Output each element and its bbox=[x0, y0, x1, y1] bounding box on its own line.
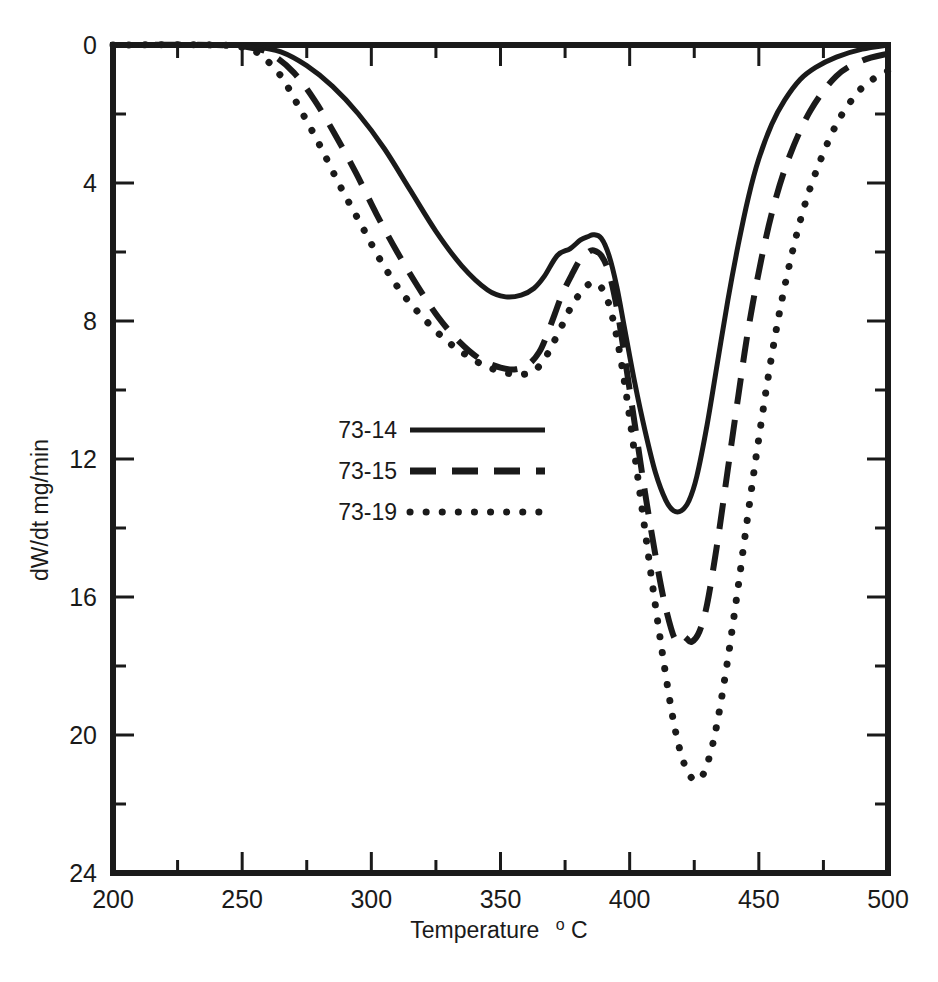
x-tick-labels: 200250300350400450500 bbox=[92, 885, 909, 913]
chart-legend: 73-1473-1573-19 bbox=[338, 417, 545, 525]
legend-label-73-14: 73-14 bbox=[338, 417, 397, 443]
x-tick-label: 500 bbox=[867, 885, 909, 913]
y-axis-title: dW/dt mg/min bbox=[27, 439, 53, 581]
y-tick-label: 0 bbox=[83, 31, 97, 59]
x-tick-label: 400 bbox=[609, 885, 651, 913]
data-series-group bbox=[113, 45, 888, 781]
legend-label-73-19: 73-19 bbox=[338, 499, 397, 525]
x-tick-label: 450 bbox=[738, 885, 780, 913]
y-tick-label: 20 bbox=[69, 721, 97, 749]
y-tick-label: 24 bbox=[69, 859, 97, 887]
x-tick-label: 300 bbox=[350, 885, 392, 913]
y-tick-label: 16 bbox=[69, 583, 97, 611]
y-tick-label: 8 bbox=[83, 307, 97, 335]
axis-ticks bbox=[116, 48, 885, 870]
dtg-chart: 200250300350400450500 04812162024 Temper… bbox=[0, 0, 938, 982]
series-line-73-14 bbox=[113, 45, 888, 512]
x-axis-title-degree: o bbox=[556, 916, 565, 933]
y-tick-label: 4 bbox=[83, 169, 97, 197]
x-tick-label: 350 bbox=[480, 885, 522, 913]
x-tick-label: 200 bbox=[92, 885, 134, 913]
x-axis-title: Temperature o C bbox=[410, 909, 587, 943]
series-line-73-19 bbox=[113, 45, 888, 781]
legend-label-73-15: 73-15 bbox=[338, 458, 397, 484]
x-axis-title-unit: C bbox=[571, 917, 588, 943]
x-tick-label: 250 bbox=[221, 885, 263, 913]
y-tick-labels: 04812162024 bbox=[69, 31, 97, 887]
x-axis-title-main: Temperature bbox=[410, 917, 539, 943]
y-tick-label: 12 bbox=[69, 445, 97, 473]
plot-frame bbox=[113, 45, 888, 873]
axis-border bbox=[113, 45, 888, 873]
chart-figure: 200250300350400450500 04812162024 Temper… bbox=[0, 0, 938, 982]
